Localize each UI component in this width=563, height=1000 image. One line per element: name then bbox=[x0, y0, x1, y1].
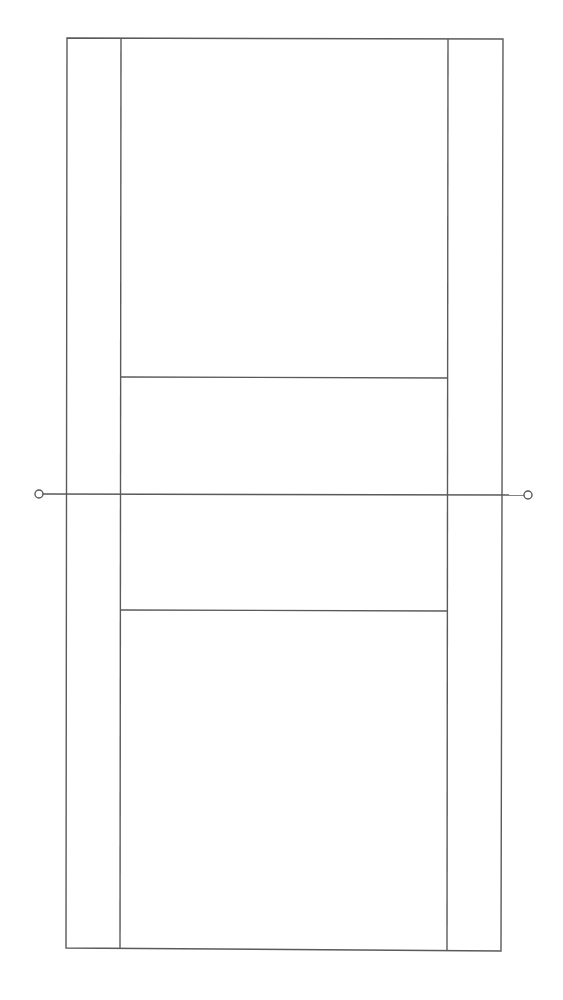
net-line bbox=[43, 494, 524, 495]
service-line-top bbox=[121, 377, 448, 378]
right-net-post-icon bbox=[524, 491, 532, 499]
left-net-post-icon bbox=[35, 490, 43, 498]
service-line-bottom bbox=[120, 610, 447, 611]
court-diagram bbox=[0, 0, 563, 1000]
